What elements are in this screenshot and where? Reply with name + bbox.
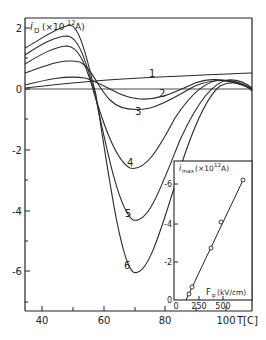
x-tick-label: 100 <box>216 315 235 326</box>
svg-text:(×10: (×10 <box>42 22 65 32</box>
inset-y-tick-label: 0 <box>167 296 172 305</box>
curve-label-2: 2 <box>159 88 165 99</box>
y-axis-label: i D (×10 12 A) <box>30 19 85 35</box>
curve-label-6: 6 <box>124 260 130 271</box>
inset-x-tick-label: 500 <box>215 302 230 311</box>
inset-plot: 0 -2 -4 -6 0 250 500 i max (×10 12 A) F … <box>164 161 252 311</box>
curve-label-3: 3 <box>135 106 141 117</box>
y-tick-label: -4 <box>12 206 22 217</box>
inset-y-tick-label: -4 <box>164 220 172 229</box>
curve-3 <box>25 61 252 110</box>
x-tick-label: 40 <box>36 315 49 326</box>
inset-y-tick-label: -6 <box>164 180 172 189</box>
y-tick-labels: 2 0 -2 -4 -6 <box>12 23 22 277</box>
data-point <box>209 246 213 250</box>
svg-text:p: p <box>212 292 216 299</box>
data-point <box>190 285 194 289</box>
svg-text:D: D <box>34 27 39 35</box>
x-tick-label: 80 <box>159 315 172 326</box>
curve-labels: 1 2 3 4 5 6 <box>124 68 165 271</box>
svg-text:12: 12 <box>214 162 221 168</box>
x-tick-labels: 40 60 80 100 <box>36 315 236 326</box>
y-tick-label: 0 <box>16 84 22 95</box>
y-tick-label: -6 <box>12 266 22 277</box>
inset-y-tick-label: -2 <box>164 258 172 267</box>
x-tick-label: 60 <box>98 315 111 326</box>
svg-text:A): A) <box>221 164 229 173</box>
chart: 2 0 -2 -4 -6 40 60 80 100 T[C] i D (×10 <box>0 0 266 340</box>
svg-text:(×10: (×10 <box>195 164 214 173</box>
inset-x-tick-label: 250 <box>191 302 206 311</box>
curve-label-4: 4 <box>127 157 133 168</box>
inset-x-tick-label: 0 <box>173 302 178 311</box>
data-point <box>187 292 191 296</box>
svg-text:F: F <box>206 287 211 297</box>
data-point <box>219 220 223 224</box>
y-ticks <box>25 28 30 302</box>
curve-label-5: 5 <box>125 208 131 219</box>
y-tick-label: 2 <box>16 23 22 34</box>
svg-text:(kV/cm): (kV/cm) <box>217 288 246 297</box>
y-tick-label: -2 <box>12 145 22 156</box>
curve-label-1: 1 <box>149 68 155 79</box>
svg-text:max: max <box>182 168 195 174</box>
data-point <box>241 178 245 182</box>
inset-frame <box>174 161 252 300</box>
x-axis-label: T[C] <box>236 315 258 326</box>
svg-text:i: i <box>30 21 33 32</box>
